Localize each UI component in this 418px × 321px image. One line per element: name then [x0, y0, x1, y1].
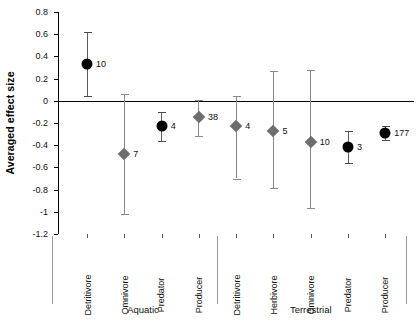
- data-point-marker[interactable]: [304, 135, 317, 148]
- y-axis-tick-label: 0.4: [35, 51, 48, 61]
- error-bar-cap-lower: [345, 163, 353, 164]
- y-axis-tick-label: 0: [43, 96, 48, 106]
- group-label: Terrestrial: [290, 304, 332, 315]
- y-axis-tick: 0.2: [54, 79, 58, 80]
- category-axis-label-text: Predator: [343, 278, 353, 313]
- sample-size-label: 7: [133, 149, 138, 159]
- y-axis-tick-label: -0.2: [32, 118, 48, 128]
- sample-size-label: 10: [96, 59, 106, 69]
- y-axis-tick: -0.2: [54, 123, 58, 124]
- category-axis-label: Omnivore: [304, 242, 318, 300]
- error-bar-cap-upper: [345, 131, 353, 132]
- error-bar-cap-lower: [270, 188, 278, 189]
- y-axis-tick: 0.6: [54, 34, 58, 35]
- data-point-marker[interactable]: [193, 111, 206, 124]
- error-bar-cap-lower: [307, 208, 315, 209]
- category-axis-label-text: Herbivore: [268, 275, 278, 314]
- sample-size-label: 10: [320, 137, 330, 147]
- data-point-marker[interactable]: [156, 121, 167, 132]
- y-axis-tick-label: -1.2: [32, 229, 48, 239]
- error-bar-cap-upper: [307, 70, 315, 71]
- error-bar-cap-lower: [195, 136, 203, 137]
- data-point-marker[interactable]: [230, 120, 243, 133]
- data-point-marker[interactable]: [380, 127, 391, 138]
- sample-size-label: 3: [357, 142, 362, 152]
- y-axis-tick-label: 0.8: [35, 7, 48, 17]
- category-axis-tick: [348, 234, 349, 238]
- plot-area: 0.80.60.40.20-0.2-0.4-0.6-0.8-1-1.2 1074…: [58, 12, 414, 234]
- data-point-marker[interactable]: [343, 142, 354, 153]
- sample-size-label: 38: [208, 112, 218, 122]
- effect-size-figure: Averaged effect size 0.80.60.40.20-0.2-0…: [0, 0, 418, 321]
- error-bar-cap-upper: [158, 112, 166, 113]
- group-separator: [406, 236, 407, 304]
- y-axis-tick-label: -0.6: [32, 162, 48, 172]
- category-axis-tick: [199, 234, 200, 238]
- category-axis-label: Detritivore: [229, 242, 243, 300]
- y-axis-title: Averaged effect size: [2, 0, 18, 245]
- error-bar-cap-upper: [270, 71, 278, 72]
- data-point-marker[interactable]: [118, 148, 131, 161]
- error-bar-cap-upper: [84, 32, 92, 33]
- category-axis-tick: [273, 234, 274, 238]
- category-axis: DetritivoreOmnivorePredatorProducerDetri…: [58, 234, 414, 321]
- sample-size-label: 4: [245, 121, 250, 131]
- group-separator: [52, 236, 53, 304]
- sample-size-label: 5: [282, 126, 287, 136]
- category-axis-label-text: Detritivore: [231, 274, 241, 315]
- error-bar-cap-lower: [158, 141, 166, 142]
- y-axis-tick: 0.8: [54, 12, 58, 13]
- category-axis-tick: [311, 234, 312, 238]
- error-bar-cap-lower: [382, 140, 390, 141]
- y-axis-tick-label: 0.2: [35, 74, 48, 84]
- category-axis-tick: [87, 234, 88, 238]
- category-axis-tick: [385, 234, 386, 238]
- category-axis-label-text: Producer: [380, 277, 390, 314]
- category-axis-label: Predator: [341, 242, 355, 300]
- category-axis-label: Predator: [155, 242, 169, 300]
- y-axis-tick: -0.4: [54, 145, 58, 146]
- category-axis-tick: [236, 234, 237, 238]
- category-axis-label: Producer: [378, 242, 392, 300]
- group-separator: [217, 236, 218, 304]
- y-axis-line: [58, 12, 59, 234]
- y-axis-tick: 0.4: [54, 56, 58, 57]
- sample-size-label: 177: [394, 128, 409, 138]
- category-axis-label-text: Producer: [194, 277, 204, 314]
- error-bar-cap-lower: [121, 214, 129, 215]
- data-point-marker[interactable]: [82, 59, 93, 70]
- error-bar-cap-upper: [195, 100, 203, 101]
- data-point-marker[interactable]: [267, 124, 280, 137]
- error-bar-cap-upper: [121, 94, 129, 95]
- category-axis-label: Omnivore: [117, 242, 131, 300]
- error-bar-cap-lower: [84, 96, 92, 97]
- y-axis-title-label: Averaged effect size: [4, 71, 16, 174]
- y-axis-tick: -1: [54, 212, 58, 213]
- y-axis-tick: -0.6: [54, 167, 58, 168]
- error-bar-cap-lower: [233, 179, 241, 180]
- category-axis-tick: [162, 234, 163, 238]
- error-bar: [236, 96, 237, 178]
- y-axis-tick-label: -0.4: [32, 140, 48, 150]
- error-bar-cap-upper: [233, 96, 241, 97]
- group-label: Aquatic: [127, 304, 159, 315]
- y-axis-tick-label: -0.8: [32, 185, 48, 195]
- category-axis-label: Herbivore: [266, 242, 280, 300]
- category-axis-label-text: Detritivore: [82, 274, 92, 315]
- category-axis-tick: [124, 234, 125, 238]
- category-axis-label: Detritivore: [80, 242, 94, 300]
- y-axis-tick: -0.8: [54, 190, 58, 191]
- sample-size-label: 4: [171, 121, 176, 131]
- y-axis-tick-label: -1: [40, 207, 48, 217]
- category-axis-label: Producer: [192, 242, 206, 300]
- y-axis-tick-label: 0.6: [35, 29, 48, 39]
